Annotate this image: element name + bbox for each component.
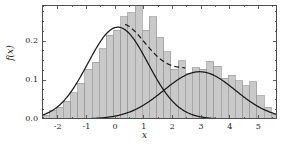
histogram-bar	[200, 69, 207, 119]
histogram-bar	[92, 62, 99, 119]
chart-svg	[42, 5, 277, 119]
x-tick-label: 0	[108, 122, 122, 131]
histogram-bar	[228, 75, 235, 119]
histogram-bar	[207, 61, 214, 119]
histogram-bar	[78, 83, 85, 119]
histogram-bar	[121, 17, 128, 119]
histogram-bars	[42, 6, 277, 119]
histogram-bar	[85, 69, 92, 119]
x-tick-label: -1	[79, 122, 93, 131]
histogram-bar	[114, 30, 121, 119]
x-tick-label: 2	[165, 122, 179, 131]
histogram-bar	[157, 37, 164, 119]
x-tick-label: -2	[51, 122, 65, 131]
x-tick-label: 5	[251, 122, 265, 131]
x-tick-label: 3	[194, 122, 208, 131]
x-tick-label: 1	[137, 122, 151, 131]
histogram-bar	[135, 6, 142, 119]
histogram-bar	[171, 69, 178, 119]
histogram-bar	[192, 68, 199, 119]
histogram-bar	[243, 86, 250, 119]
histogram-bar	[264, 107, 271, 119]
histogram-bar	[128, 13, 135, 119]
y-tick-label: 0.0	[16, 114, 38, 123]
histogram-bar	[99, 49, 106, 119]
plot-area	[42, 5, 277, 119]
histogram-bar	[235, 81, 242, 119]
histogram-bar	[63, 101, 70, 119]
y-tick-label: 0.1	[16, 75, 38, 84]
y-axis-label: f(x)	[5, 45, 15, 60]
histogram-bar	[250, 82, 257, 119]
figure-container: f(x) x -2-10123450.00.10.2	[0, 0, 289, 146]
x-axis-label: x	[0, 130, 289, 140]
histogram-bar	[214, 66, 221, 119]
y-tick-label: 0.2	[16, 36, 38, 45]
histogram-bar	[71, 93, 78, 120]
histogram-bar	[106, 35, 113, 119]
x-tick-label: 4	[223, 122, 237, 131]
